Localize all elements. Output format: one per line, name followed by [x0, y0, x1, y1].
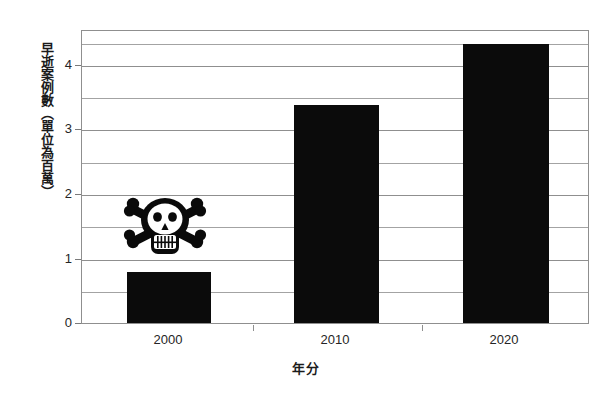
y-tick-label-2: 2: [50, 186, 72, 201]
y-tick-label-4: 4: [50, 57, 72, 72]
bar-2020[interactable]: [463, 44, 549, 323]
y-tick-mark-3: [75, 129, 81, 130]
bar-2010[interactable]: [294, 105, 379, 323]
y-tick-mark-0: [75, 323, 81, 324]
y-tick-mark-1: [75, 259, 81, 260]
x-tick-label-2010: 2010: [295, 332, 375, 347]
bar-chart-figure: 早逝案例數（單位為百萬） 4 3 2 1 0 2000 2010 2020 年分: [0, 0, 612, 400]
x-tick-mark-2: [422, 325, 423, 331]
x-tick-label-2020: 2020: [464, 332, 544, 347]
bar-2000[interactable]: [127, 272, 211, 323]
skull-crossbones-icon: [121, 190, 209, 258]
y-tick-mark-4: [75, 65, 81, 66]
y-tick-label-0: 0: [50, 315, 72, 330]
y-tick-label-3: 3: [50, 121, 72, 136]
x-axis-title: 年分: [0, 358, 612, 377]
y-tick-label-1: 1: [50, 251, 72, 266]
x-tick-label-2000: 2000: [128, 332, 208, 347]
y-tick-mark-2: [75, 194, 81, 195]
plot-area: [81, 30, 589, 324]
x-tick-mark-1: [253, 325, 254, 331]
